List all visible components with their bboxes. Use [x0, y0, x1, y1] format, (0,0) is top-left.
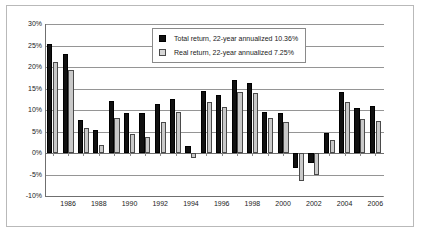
y-axis-tick-label: 20% [8, 63, 42, 70]
y-axis-tick-label: 15% [8, 85, 42, 92]
y-axis-tick-label: -5% [8, 171, 42, 178]
bar-real-return-1998 [253, 93, 258, 153]
bar-total-return-2006 [370, 106, 375, 153]
black-square-icon [159, 35, 166, 42]
bar-total-return-2002 [308, 153, 313, 163]
bar-real-return-1991 [145, 137, 150, 153]
bar-real-return-1992 [161, 122, 166, 153]
bar-group [337, 24, 352, 196]
bar-group [76, 24, 91, 196]
x-axis-tick-label: 1990 [122, 200, 138, 208]
bar-total-return-1996 [216, 95, 221, 153]
bar-total-return-1986 [63, 54, 68, 153]
bar-real-return-1989 [114, 118, 119, 153]
bar-total-return-1995 [201, 91, 206, 153]
bar-total-return-1989 [109, 101, 114, 153]
x-axis-tick-label: 2004 [337, 200, 353, 208]
bar-real-return-1986 [68, 70, 73, 153]
bar-total-return-1994 [185, 146, 190, 153]
y-axis-tick-label: 5% [8, 128, 42, 135]
bar-total-return-2005 [354, 108, 359, 153]
x-axis-tick-label: 2000 [275, 200, 291, 208]
bar-total-return-2001 [293, 153, 298, 168]
bar-group [60, 24, 75, 196]
bar-real-return-1997 [237, 92, 242, 153]
bar-group [122, 24, 137, 196]
x-axis-tick-label: 2006 [368, 200, 384, 208]
bar-real-return-2006 [376, 121, 381, 153]
bar-group [91, 24, 106, 196]
bar-group [137, 24, 152, 196]
bar-real-return-1999 [268, 118, 273, 153]
bar-total-return-1999 [262, 112, 267, 153]
bar-group [352, 24, 367, 196]
bar-group [45, 24, 60, 196]
chart-figure: 30%25%20%15%10%5%0%-5%-10% 1986198819901… [0, 0, 421, 234]
y-axis-tick-label: 0% [8, 149, 42, 156]
gray-square-icon [159, 49, 166, 56]
bar-real-return-1987 [84, 128, 89, 153]
bar-real-return-1993 [176, 112, 181, 153]
legend-item-label: Real return, 22-year annualized 7.25% [174, 49, 294, 57]
bar-total-return-1987 [78, 120, 83, 153]
bar-real-return-1994 [191, 153, 196, 158]
bar-total-return-1990 [124, 113, 129, 153]
y-axis-tick-label: 10% [8, 106, 42, 113]
legend-item-total-return: Total return, 22-year annualized 10.36% [159, 33, 298, 44]
bar-real-return-2003 [330, 140, 335, 153]
x-axis-line [45, 196, 383, 197]
legend-item-real-return: Real return, 22-year annualized 7.25% [159, 47, 298, 58]
x-axis-tick-label: 1986 [60, 200, 76, 208]
y-axis-tick-label: -10% [8, 192, 42, 199]
bar-real-return-2005 [360, 119, 365, 153]
y-axis-tick-label: 30% [8, 20, 42, 27]
legend-item-label: Total return, 22-year annualized 10.36% [174, 35, 298, 43]
bar-real-return-1988 [99, 145, 104, 153]
bar-total-return-1993 [170, 99, 175, 153]
bar-real-return-2000 [283, 122, 288, 153]
bar-total-return-1991 [139, 113, 144, 153]
x-axis-tick-label: 1988 [91, 200, 107, 208]
bar-total-return-2004 [339, 92, 344, 153]
x-axis-tick-label: 1992 [152, 200, 168, 208]
bar-real-return-1990 [130, 134, 135, 153]
x-axis-labels: 1986198819901992199419961998200020022004… [45, 200, 383, 212]
bar-real-return-2001 [299, 153, 304, 181]
bar-total-return-1992 [155, 104, 160, 153]
bar-total-return-1988 [93, 130, 98, 153]
bar-real-return-2002 [314, 153, 319, 175]
bar-real-return-2004 [345, 102, 350, 153]
x-axis-tick-label: 2002 [306, 200, 322, 208]
x-axis-tick-label: 1994 [183, 200, 199, 208]
bar-real-return-1985 [53, 62, 58, 153]
bar-total-return-1998 [247, 83, 252, 153]
x-axis-tick-label: 1996 [214, 200, 230, 208]
bar-real-return-1996 [222, 107, 227, 153]
bar-group [106, 24, 121, 196]
chart-legend: Total return, 22-year annualized 10.36% … [152, 28, 306, 63]
bar-group [368, 24, 383, 196]
bar-total-return-1985 [47, 44, 52, 153]
bar-total-return-1997 [232, 80, 237, 153]
bar-group [322, 24, 337, 196]
y-axis-tick-label: 25% [8, 42, 42, 49]
bar-group [306, 24, 321, 196]
bar-total-return-2000 [278, 113, 283, 153]
x-axis-tick-label: 1998 [245, 200, 261, 208]
bar-total-return-2003 [324, 133, 329, 153]
bar-real-return-1995 [207, 102, 212, 153]
